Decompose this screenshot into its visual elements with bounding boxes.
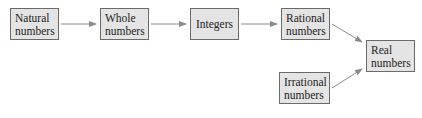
node-label-line2: numbers xyxy=(371,57,410,70)
node-label-line2: numbers xyxy=(105,25,144,38)
node-real-numbers: Real numbers xyxy=(366,40,415,72)
node-integers: Integers xyxy=(190,8,239,40)
node-rational-numbers: Rational numbers xyxy=(281,8,330,40)
node-label-line1: Natural xyxy=(15,12,54,25)
node-label-line1: Rational xyxy=(286,12,325,25)
arrow-irrational-to-real xyxy=(332,69,362,88)
node-label-line1: Real xyxy=(371,44,410,57)
node-label-line1: Irrational xyxy=(284,76,325,89)
node-label-line1: Integers xyxy=(196,18,233,31)
node-natural-numbers: Natural numbers xyxy=(10,8,59,40)
node-whole-numbers: Whole numbers xyxy=(100,8,149,40)
node-irrational-numbers: Irrational numbers xyxy=(279,72,330,104)
node-label-line1: Whole xyxy=(105,12,144,25)
node-label-line2: numbers xyxy=(15,25,54,38)
arrow-rational-to-real xyxy=(332,24,362,42)
node-label-line2: numbers xyxy=(284,89,325,102)
node-label-line2: numbers xyxy=(286,25,325,38)
